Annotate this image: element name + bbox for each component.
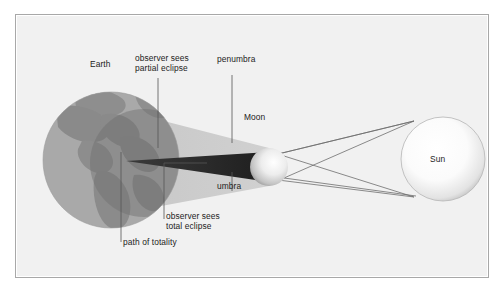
label-penumbra: penumbra — [217, 54, 256, 64]
label-observer-partial: observer sees partial eclipse — [135, 53, 189, 73]
diagram-stage: Earth observer sees partial eclipse penu… — [0, 0, 504, 295]
label-sun: Sun — [430, 154, 445, 164]
moon-body — [250, 148, 288, 186]
label-path-of-totality: path of totality — [123, 237, 177, 247]
label-umbra: umbra — [217, 181, 241, 191]
label-moon: Moon — [244, 112, 265, 122]
earth-body — [43, 87, 198, 229]
label-observer-total: observer sees total eclipse — [166, 211, 220, 231]
diagram-frame: Earth observer sees partial eclipse penu… — [15, 14, 489, 278]
label-earth: Earth — [90, 59, 111, 69]
light-rays — [278, 121, 416, 197]
